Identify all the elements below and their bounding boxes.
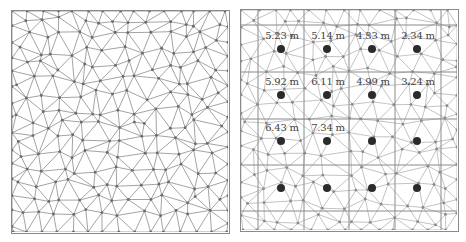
measurement-point <box>368 184 376 192</box>
depth-label: 5.23 m <box>265 31 299 41</box>
depth-label: 4.99 m <box>356 77 390 87</box>
mesh-canvas <box>12 11 228 232</box>
measurement-point <box>413 184 421 192</box>
measurement-point <box>368 91 376 99</box>
measurement-point <box>277 137 285 145</box>
measurement-point <box>323 45 331 53</box>
measurement-point <box>368 137 376 145</box>
depth-label: 4.33 m <box>356 31 390 41</box>
depth-label: 5.14 m <box>311 31 345 41</box>
depth-label: 5.92 m <box>265 77 299 87</box>
depth-label: 6.43 m <box>265 123 299 133</box>
measurement-point <box>413 45 421 53</box>
measurement-point <box>277 184 285 192</box>
mesh-grid-canvas <box>241 10 457 230</box>
triangular-mesh-panel <box>11 10 230 234</box>
mesh-edges <box>12 11 228 232</box>
mesh-with-grid-panel: 5.23 m5.14 m4.33 m2.34 m5.92 m6.11 m4.99… <box>240 9 459 232</box>
measurement-point <box>413 137 421 145</box>
measurement-point <box>413 91 421 99</box>
measurement-point <box>323 184 331 192</box>
measurement-point <box>323 137 331 145</box>
depth-label: 3.24 m <box>401 77 435 87</box>
rectangular-grid <box>241 10 457 230</box>
depth-label: 7.34 m <box>311 123 345 133</box>
depth-label: 6.11 m <box>311 77 345 87</box>
measurement-point <box>277 91 285 99</box>
measurement-point <box>368 45 376 53</box>
measurement-point <box>323 91 331 99</box>
measurement-point <box>277 45 285 53</box>
depth-label: 2.34 m <box>401 31 435 41</box>
